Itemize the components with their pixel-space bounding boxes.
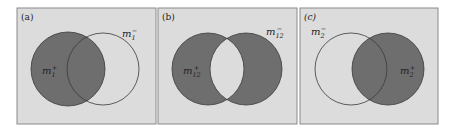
panel-c: (c) m2+ m2− [300,8,438,124]
panel-a-tag: (a) [21,12,33,22]
venn-figure: (a) m1+ m1− (b) m12+ m12− (c) m2+ m2− [0,0,455,129]
panel-a: (a) m1+ m1− [17,8,156,124]
panel-c-tag: (c) [304,12,317,22]
panel-b: (b) m12+ m12− [158,8,297,124]
panel-b-tag: (b) [162,12,175,22]
